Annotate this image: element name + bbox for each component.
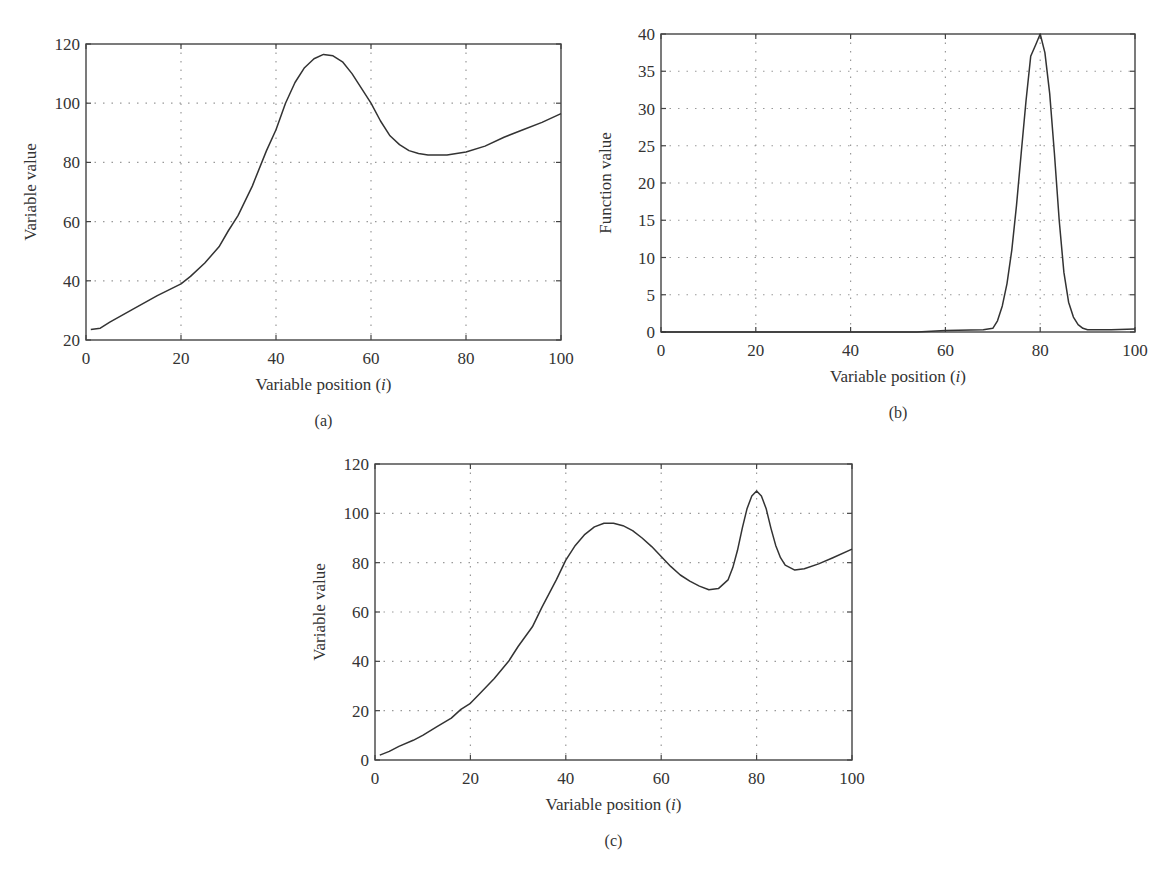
y-tick-label: 0 xyxy=(361,751,370,770)
x-axis-label: Variable position (i) xyxy=(546,795,682,814)
y-tick-label: 80 xyxy=(352,554,369,573)
y-tick-label: 40 xyxy=(638,25,655,44)
x-tick-label: 40 xyxy=(268,349,285,368)
y-tick-label: 20 xyxy=(638,174,655,193)
x-tick-label: 100 xyxy=(839,769,865,788)
y-tick-label: 40 xyxy=(352,652,369,671)
x-tick-label: 60 xyxy=(363,349,380,368)
panel-label: (b) xyxy=(889,404,908,422)
x-axis-label: Variable position (i) xyxy=(256,375,392,394)
data-line xyxy=(91,54,561,329)
x-tick-label: 100 xyxy=(548,349,574,368)
y-tick-label: 25 xyxy=(638,137,655,156)
x-tick-label: 0 xyxy=(371,769,380,788)
x-tick-label: 0 xyxy=(657,341,666,360)
y-axis-label: Variable value xyxy=(310,563,329,661)
y-tick-label: 120 xyxy=(55,35,81,54)
chart-a: 02040608010020406080100120Variable posit… xyxy=(21,35,574,430)
y-tick-label: 10 xyxy=(638,249,655,268)
y-tick-label: 120 xyxy=(344,455,370,474)
y-tick-label: 100 xyxy=(344,504,370,523)
data-line xyxy=(380,491,852,755)
x-tick-label: 20 xyxy=(747,341,764,360)
figure: 02040608010020406080100120Variable posit… xyxy=(0,0,1162,883)
y-tick-label: 60 xyxy=(352,603,369,622)
y-tick-label: 5 xyxy=(647,286,656,305)
x-tick-label: 80 xyxy=(1032,341,1049,360)
panel-label: (a) xyxy=(315,412,333,430)
y-tick-label: 0 xyxy=(647,323,656,342)
x-tick-label: 20 xyxy=(173,349,190,368)
y-tick-label: 15 xyxy=(638,211,655,230)
x-tick-label: 40 xyxy=(842,341,859,360)
chart-c: 020406080100020406080100120Variable posi… xyxy=(310,455,865,850)
panel-label: (c) xyxy=(605,832,623,850)
chart-b: 0204060801000510152025303540Variable pos… xyxy=(596,25,1148,422)
y-tick-label: 30 xyxy=(638,100,655,119)
y-tick-label: 40 xyxy=(63,272,80,291)
x-tick-label: 100 xyxy=(1122,341,1148,360)
y-tick-label: 100 xyxy=(55,94,81,113)
y-tick-label: 20 xyxy=(63,331,80,350)
x-axis-label: Variable position (i) xyxy=(830,367,966,386)
x-tick-label: 60 xyxy=(937,341,954,360)
data-line xyxy=(661,34,1135,332)
grid-lines xyxy=(375,464,852,760)
y-axis-label: Variable value xyxy=(21,143,40,241)
y-tick-label: 80 xyxy=(63,153,80,172)
x-tick-label: 80 xyxy=(458,349,475,368)
plot-frame xyxy=(661,34,1135,332)
y-tick-label: 35 xyxy=(638,62,655,81)
y-tick-label: 20 xyxy=(352,702,369,721)
grid-lines xyxy=(661,34,1135,332)
x-tick-label: 40 xyxy=(557,769,574,788)
y-tick-label: 60 xyxy=(63,213,80,232)
y-axis-label: Function value xyxy=(596,132,615,234)
x-tick-label: 60 xyxy=(653,769,670,788)
tick-marks xyxy=(661,34,1135,332)
x-tick-label: 0 xyxy=(82,349,91,368)
x-tick-label: 80 xyxy=(748,769,765,788)
x-tick-label: 20 xyxy=(462,769,479,788)
